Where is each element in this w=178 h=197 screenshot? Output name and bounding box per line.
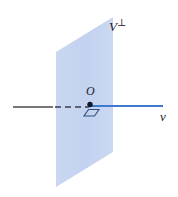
vector-label-v: v xyxy=(160,110,166,123)
plane-label-base: V xyxy=(109,19,117,34)
origin-label: O xyxy=(86,85,95,97)
plane-v-perp-shape xyxy=(56,17,113,187)
origin-point xyxy=(87,102,92,107)
perpendicular-symbol: ⊥ xyxy=(117,17,126,28)
plane-label-v-perp: V⊥ xyxy=(109,18,126,33)
diagram-canvas xyxy=(0,0,178,197)
orthogonal-complement-diagram: V⊥ O v xyxy=(0,0,178,197)
